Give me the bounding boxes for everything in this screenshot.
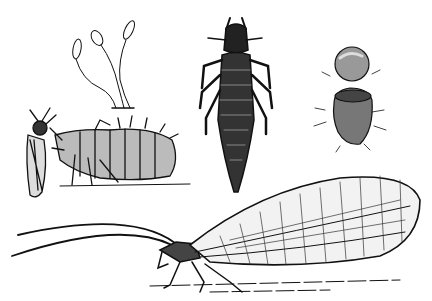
illustration-svg	[0, 0, 432, 301]
feeding-larva	[27, 108, 190, 197]
cocoon	[314, 47, 386, 152]
larva-dorsal	[200, 18, 272, 192]
stalked-eggs	[71, 19, 137, 108]
adult-lacewing	[12, 176, 420, 292]
lacewing-illustration	[0, 0, 432, 301]
